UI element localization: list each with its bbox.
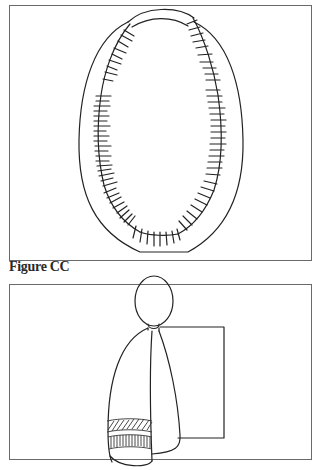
cloak-center-fold <box>151 331 153 461</box>
cloak-hem <box>110 456 152 466</box>
cloak-hatched-band-bottom <box>107 430 152 432</box>
figure-cc-drawing <box>107 276 224 466</box>
cloak-vertical-stripes <box>111 435 150 448</box>
collar-top-arc-outer <box>128 9 194 22</box>
collar-top-arc-inner <box>132 19 188 27</box>
cloak-striped-band-bottom <box>109 447 152 449</box>
cloak-hatched-band-top <box>107 419 152 421</box>
stitch-rungs-right <box>179 20 226 230</box>
cloak-striped-band-top <box>108 435 152 437</box>
illustration-canvas <box>0 0 318 470</box>
cloak-right-flap <box>152 331 180 454</box>
stitch-rungs-left <box>94 30 135 225</box>
stitch-rungs-bottom <box>133 226 180 246</box>
collar-outer-outline <box>79 22 243 252</box>
doll-head <box>135 276 173 326</box>
oval-collar-drawing <box>79 9 243 252</box>
back-panel <box>160 327 224 438</box>
stitch-spine-left <box>98 24 140 232</box>
cloak-hatching <box>108 419 152 431</box>
